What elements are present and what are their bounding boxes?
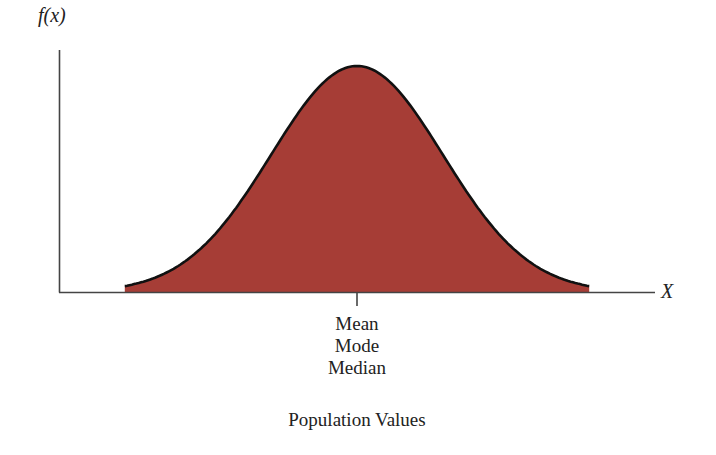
distribution-area bbox=[125, 66, 589, 292]
x-axis-label: X bbox=[661, 280, 673, 303]
mode-label: Mode bbox=[297, 335, 417, 357]
normal-distribution-chart bbox=[0, 0, 716, 455]
median-label: Median bbox=[297, 357, 417, 379]
center-tick-labels: Mean Mode Median bbox=[297, 313, 417, 379]
mean-label: Mean bbox=[297, 313, 417, 335]
y-axis-label: f(x) bbox=[38, 4, 66, 27]
x-axis-title: Population Values bbox=[237, 409, 477, 431]
